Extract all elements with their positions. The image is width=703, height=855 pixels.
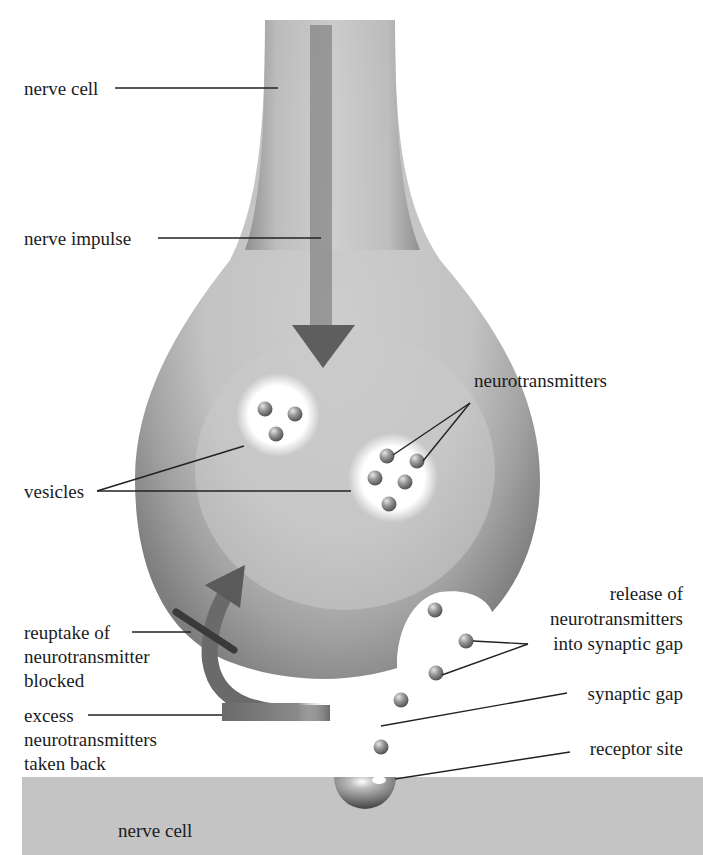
- label-neurotransmitters: neurotransmitters: [474, 369, 607, 392]
- label-nerve-cell-top: nerve cell: [24, 77, 98, 100]
- label-nerve-impulse: nerve impulse: [24, 227, 131, 250]
- label-release-line2: neurotransmitters: [550, 607, 683, 630]
- label-synaptic-gap: synaptic gap: [587, 682, 683, 705]
- label-reuptake-line1: reuptake of: [24, 621, 110, 644]
- neurotransmitter: [380, 449, 395, 464]
- label-excess-line1: excess: [24, 704, 74, 727]
- label-nerve-cell-bottom: nerve cell: [118, 819, 192, 842]
- label-release-line3: into synaptic gap: [553, 632, 683, 655]
- label-excess-line3: taken back: [24, 752, 106, 775]
- neurotransmitter: [410, 454, 425, 469]
- label-release-line1: release of: [610, 582, 683, 605]
- vesicle-right: [348, 433, 438, 523]
- vesicle-left: [236, 373, 320, 457]
- label-excess-line2: neurotransmitters: [24, 728, 157, 751]
- synapse-diagram: [0, 0, 703, 855]
- label-receptor-site: receptor site: [590, 737, 683, 760]
- label-reuptake-line3: blocked: [24, 669, 84, 692]
- label-vesicles: vesicles: [24, 480, 84, 503]
- label-reuptake-line2: neurotransmitter: [24, 645, 150, 668]
